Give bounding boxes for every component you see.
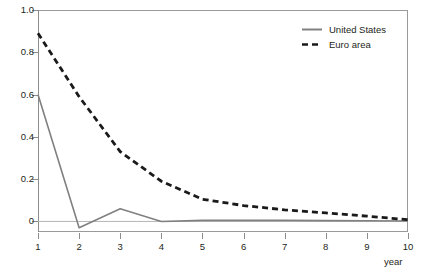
legend-label-euro-area: Euro area xyxy=(329,39,371,50)
legend-label-united-states: United States xyxy=(329,24,386,35)
legend-item-euro-area: Euro area xyxy=(302,37,386,52)
series-line-united-states xyxy=(38,95,408,228)
chart-legend: United States Euro area xyxy=(302,22,386,52)
chart-container: 1.00.80.60.40.20 12345678910 year United… xyxy=(0,0,431,272)
series-line-euro-area xyxy=(38,33,408,219)
solid-line-swatch xyxy=(302,24,322,35)
dashed-line-swatch xyxy=(302,39,322,50)
legend-item-united-states: United States xyxy=(302,22,386,37)
